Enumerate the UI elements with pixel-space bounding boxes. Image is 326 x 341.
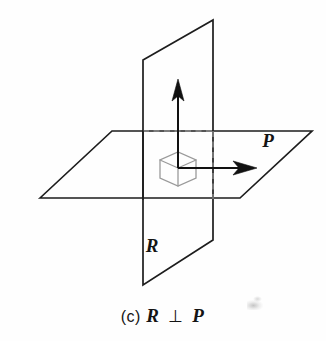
geometry-figure: P R (c) R ⊥ P (0, 0, 326, 341)
caption-symbol-P: P (191, 305, 205, 326)
caption-symbol-R: R (145, 305, 160, 326)
caption-perpendicular-symbol: ⊥ (165, 307, 186, 326)
caption-index-label: (c) (121, 308, 141, 325)
plane-label-P: P (261, 130, 274, 151)
plane-label-R: R (145, 235, 159, 256)
right-angle-marker-edge-left (160, 160, 178, 168)
figure-caption: (c) R ⊥ P (0, 305, 326, 327)
right-angle-marker-edge-right (178, 160, 196, 168)
perpendicular-planes-diagram: P R (0, 0, 326, 341)
